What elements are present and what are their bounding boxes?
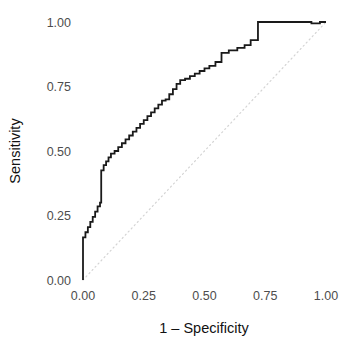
roc-curve-figure: 0.000.250.500.751.00 0.000.250.500.751.0… xyxy=(0,0,353,342)
x-tick-label: 0.25 xyxy=(132,289,156,303)
y-tick-label: 0.25 xyxy=(47,209,71,223)
roc-plot-svg: 0.000.250.500.751.00 0.000.250.500.751.0… xyxy=(0,0,353,342)
y-axis-title: Sensitivity xyxy=(7,118,23,184)
y-tick-label: 1.00 xyxy=(47,16,71,30)
x-tick-label: 0.75 xyxy=(253,289,277,303)
x-tick-label: 0.50 xyxy=(192,289,216,303)
y-tick-label: 0.75 xyxy=(47,80,71,94)
y-tick-label: 0.50 xyxy=(47,145,71,159)
plot-background xyxy=(0,0,353,342)
y-tick-label: 0.00 xyxy=(47,274,71,288)
x-tick-label: 0.00 xyxy=(71,289,95,303)
x-axis-title: 1 – Specificity xyxy=(159,320,249,336)
x-tick-label: 1.00 xyxy=(314,289,338,303)
